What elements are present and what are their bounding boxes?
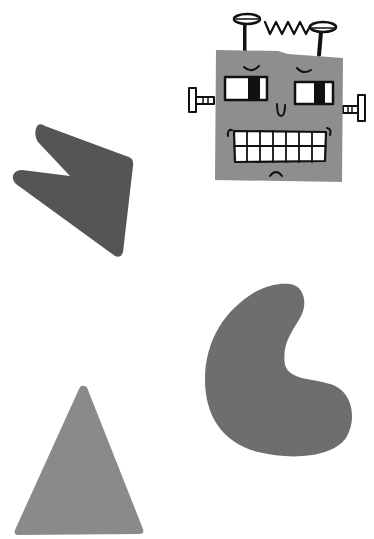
eye-left: [225, 77, 267, 100]
eye-right: [295, 82, 333, 104]
illustration-canvas: [0, 0, 374, 539]
teeth-grid: [234, 131, 326, 162]
